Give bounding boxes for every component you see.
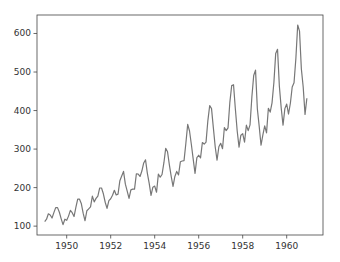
x-tick-label: 1952 — [99, 241, 122, 251]
x-tick-label: 1960 — [275, 241, 298, 251]
axes-frame — [37, 15, 323, 235]
x-axis: 195019521954195619581960 — [55, 235, 298, 251]
x-tick-label: 1954 — [143, 241, 166, 251]
y-tick-label: 100 — [14, 221, 31, 231]
y-tick-label: 500 — [14, 67, 31, 77]
y-tick-label: 300 — [14, 144, 31, 154]
y-tick-label: 200 — [14, 183, 31, 193]
x-tick-label: 1950 — [55, 241, 78, 251]
line-chart: 195019521954195619581960 100200300400500… — [0, 0, 340, 262]
y-tick-label: 600 — [14, 28, 31, 38]
y-axis: 100200300400500600 — [14, 28, 37, 231]
x-tick-label: 1956 — [187, 241, 210, 251]
x-tick-label: 1958 — [231, 241, 254, 251]
y-tick-label: 400 — [14, 106, 31, 116]
plot-area — [37, 15, 323, 235]
